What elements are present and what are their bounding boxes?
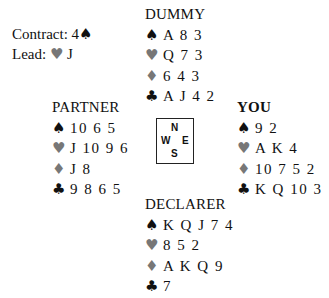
clubs-cards: 9 8 6 5 bbox=[70, 181, 122, 197]
diamonds-cards: A K Q 9 bbox=[163, 258, 224, 274]
hand-title: YOU bbox=[237, 97, 322, 118]
contract-info: Contract: 4♠ Lead: ♥ J bbox=[12, 24, 93, 64]
clubs-cards: A J 4 2 bbox=[163, 88, 216, 104]
compass-west: W bbox=[161, 135, 170, 146]
diamonds-cards: J 8 bbox=[70, 161, 92, 177]
compass-south: S bbox=[171, 148, 178, 159]
compass-east: E bbox=[182, 135, 189, 146]
clubs-cards: 7 bbox=[163, 278, 172, 294]
spade-icon: ♠ bbox=[237, 118, 255, 139]
club-icon: ♣ bbox=[145, 86, 163, 107]
lead-label: Lead: bbox=[12, 46, 50, 62]
diamond-icon: ♦ bbox=[237, 159, 255, 180]
compass-diagram: N W E S bbox=[156, 118, 194, 164]
heart-icon: ♥ bbox=[237, 138, 255, 159]
hearts-cards: Q 7 3 bbox=[163, 47, 204, 63]
spade-icon: ♠ bbox=[79, 24, 92, 44]
lead-line: Lead: ♥ J bbox=[12, 44, 93, 64]
diamonds-cards: 6 4 3 bbox=[163, 68, 201, 84]
hand-south-declarer: DECLARER ♠K Q J 7 4 ♥8 5 2 ♦A K Q 9 ♣7 bbox=[145, 194, 234, 297]
diamond-icon: ♦ bbox=[145, 256, 163, 277]
hearts-cards: 8 5 2 bbox=[163, 237, 201, 253]
spades-cards: K Q J 7 4 bbox=[163, 217, 234, 233]
hearts-cards: J 10 9 6 bbox=[70, 140, 129, 156]
heart-icon: ♥ bbox=[145, 235, 163, 256]
hand-title: DUMMY bbox=[145, 4, 216, 25]
lead-card: J bbox=[67, 46, 73, 62]
heart-icon: ♥ bbox=[52, 138, 70, 159]
hand-east-you: YOU ♠9 2 ♥A K 4 ♦10 7 5 2 ♣K Q 10 3 bbox=[237, 97, 322, 200]
heart-icon: ♥ bbox=[50, 44, 63, 64]
spades-cards: 10 6 5 bbox=[70, 120, 117, 136]
diamond-icon: ♦ bbox=[52, 159, 70, 180]
hand-title: PARTNER bbox=[52, 97, 129, 118]
clubs-cards: K Q 10 3 bbox=[255, 181, 322, 197]
hearts-cards: A K 4 bbox=[255, 140, 298, 156]
spade-icon: ♠ bbox=[145, 25, 163, 46]
club-icon: ♣ bbox=[237, 179, 255, 200]
hand-title: DECLARER bbox=[145, 194, 234, 215]
spades-cards: 9 2 bbox=[255, 120, 278, 136]
diamonds-cards: 10 7 5 2 bbox=[255, 161, 316, 177]
hand-west-partner: PARTNER ♠10 6 5 ♥J 10 9 6 ♦J 8 ♣9 8 6 5 bbox=[52, 97, 129, 200]
hand-north-dummy: DUMMY ♠A 8 3 ♥Q 7 3 ♦6 4 3 ♣A J 4 2 bbox=[145, 4, 216, 107]
spade-icon: ♠ bbox=[52, 118, 70, 139]
diamond-icon: ♦ bbox=[145, 66, 163, 87]
club-icon: ♣ bbox=[52, 179, 70, 200]
contract-label: Contract: 4 bbox=[12, 26, 79, 42]
spade-icon: ♠ bbox=[145, 215, 163, 236]
heart-icon: ♥ bbox=[145, 45, 163, 66]
club-icon: ♣ bbox=[145, 276, 163, 297]
spades-cards: A 8 3 bbox=[163, 27, 203, 43]
compass-north: N bbox=[171, 122, 178, 133]
contract-line: Contract: 4♠ bbox=[12, 24, 93, 44]
